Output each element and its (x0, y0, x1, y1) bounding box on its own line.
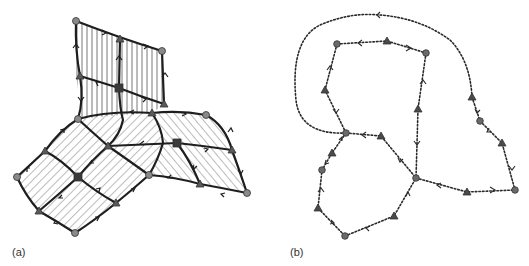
panel-a-label: (a) (12, 246, 25, 258)
edge-arrowheads-b (318, 12, 515, 231)
figure-canvas (0, 0, 529, 266)
circle-nodes-b (319, 41, 519, 240)
panel-b-label: (b) (290, 246, 303, 258)
panel-b-nodes (314, 37, 518, 239)
panel-a-mesh (14, 18, 251, 237)
panel-b-graph (295, 12, 518, 239)
